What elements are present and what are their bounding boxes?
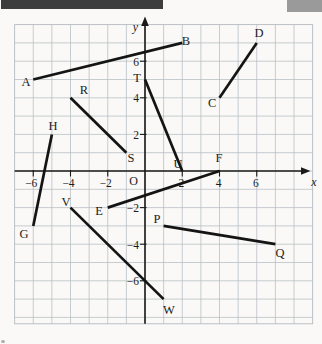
x-tick-label: 4 — [216, 177, 222, 189]
y-axis-arrowhead — [141, 17, 149, 27]
y-tick-label: −2 — [127, 202, 139, 214]
point-label-w: W — [163, 303, 175, 317]
point-label-t: T — [133, 71, 141, 85]
x-tick-label: −4 — [62, 177, 74, 189]
point-label-v: V — [62, 195, 71, 209]
point-label-h: H — [48, 119, 57, 133]
coordinate-grid-figure: xyO −6−4−2246642−2−4−6 ABCDRSTUEFHGVWPQ — [0, 0, 322, 344]
x-axis-label: x — [310, 175, 317, 189]
point-label-g: G — [19, 227, 28, 241]
point-label-r: R — [80, 83, 89, 97]
y-tick-label: −4 — [127, 239, 139, 251]
point-label-q: Q — [276, 246, 285, 260]
y-tick-label: −6 — [127, 275, 139, 287]
y-tick-label: 6 — [133, 56, 139, 68]
point-label-s: S — [128, 151, 135, 165]
x-tick-label: −2 — [100, 177, 112, 189]
y-tick-label: 4 — [133, 92, 139, 104]
point-label-e: E — [95, 204, 103, 218]
x-tick-label: 6 — [253, 177, 259, 189]
origin-label: O — [129, 174, 138, 188]
segment-vw — [71, 208, 164, 300]
point-label-a: A — [21, 75, 30, 89]
axes: xyO — [15, 17, 318, 324]
grid-lines — [15, 25, 313, 324]
point-label-u: U — [173, 157, 182, 171]
y-axis-label: y — [132, 20, 139, 34]
y-tick-label: 2 — [133, 129, 139, 141]
x-axis-arrowhead — [301, 167, 311, 175]
point-label-c: C — [208, 96, 216, 110]
point-label-d: D — [254, 26, 263, 40]
point-label-b: B — [182, 34, 190, 48]
point-label-f: F — [215, 151, 222, 165]
point-label-p: P — [153, 212, 160, 226]
x-tick-label: −6 — [25, 177, 37, 189]
segment-rs — [71, 98, 127, 153]
